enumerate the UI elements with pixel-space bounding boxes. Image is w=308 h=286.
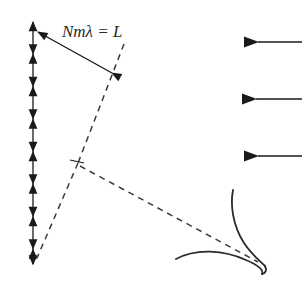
physics-diagram: Nmλ = L: [0, 0, 308, 286]
array-element-up: [29, 54, 38, 64]
vertical-source-array: [29, 21, 38, 266]
beam-edge-upper: [78, 44, 124, 163]
array-element-down: [29, 174, 38, 184]
vertex-tick-icon: [70, 160, 84, 163]
incoming-flow-arrows: [256, 42, 302, 156]
beam-envelope: [37, 44, 258, 262]
array-element-down: [29, 239, 38, 249]
array-element-down: [29, 44, 38, 54]
array-element-up: [29, 21, 38, 31]
array-element-down: [29, 142, 38, 152]
beam-edge-to-body: [80, 166, 258, 262]
array-element-up: [29, 151, 38, 161]
dimension-label: Nmλ = L: [61, 22, 122, 41]
array-element-down: [29, 207, 38, 217]
airfoil-lower-surface: [176, 252, 262, 274]
array-element-up: [29, 86, 38, 96]
array-element-up: [29, 184, 38, 194]
array-element-down: [29, 109, 38, 119]
array-element-up: [29, 119, 38, 129]
airfoil-upper-surface: [232, 190, 265, 266]
diagram-canvas: Nmλ = L: [0, 0, 308, 286]
airfoil-cross-section: [176, 190, 266, 274]
array-element-down: [29, 77, 38, 87]
array-element-down: [29, 255, 38, 265]
beam-edge-lower-left: [37, 163, 78, 258]
array-element-up: [29, 216, 38, 226]
